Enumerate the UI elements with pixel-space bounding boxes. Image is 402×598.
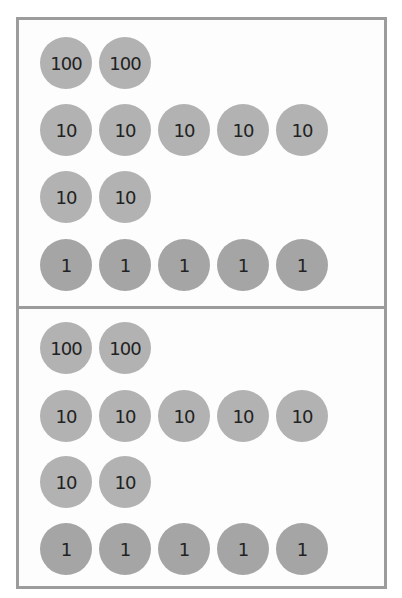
ten-disc: 10: [99, 104, 151, 156]
ones-row: 1 1 1 1 1: [40, 523, 328, 575]
hundred-disc: 100: [40, 37, 92, 89]
one-disc: 1: [217, 523, 269, 575]
ten-disc: 10: [276, 104, 328, 156]
ten-disc: 10: [40, 171, 92, 223]
hundred-disc: 100: [40, 322, 92, 374]
one-disc: 1: [217, 239, 269, 291]
hundred-disc: 100: [99, 37, 151, 89]
tens-row: 10 10 10 10 10: [40, 104, 328, 156]
one-disc: 1: [158, 239, 210, 291]
one-disc: 1: [276, 523, 328, 575]
ones-row: 1 1 1 1 1: [40, 239, 328, 291]
ten-disc: 10: [217, 104, 269, 156]
one-disc: 1: [40, 523, 92, 575]
tens-row: 10 10 10 10 10: [40, 390, 328, 442]
panel-top: 100 100 10 10 10 10 10 10 10 1 1 1 1 1: [19, 20, 384, 306]
one-disc: 1: [40, 239, 92, 291]
ten-disc: 10: [158, 104, 210, 156]
one-disc: 1: [99, 523, 151, 575]
place-value-frame: 100 100 10 10 10 10 10 10 10 1 1 1 1 1 1…: [16, 17, 387, 589]
ten-disc: 10: [99, 456, 151, 508]
hundreds-row: 100 100: [40, 322, 151, 374]
panel-bottom: 100 100 10 10 10 10 10 10 10 1 1 1 1 1: [19, 309, 384, 586]
ten-disc: 10: [40, 390, 92, 442]
tens-row-2: 10 10: [40, 456, 151, 508]
ten-disc: 10: [40, 456, 92, 508]
one-disc: 1: [276, 239, 328, 291]
ten-disc: 10: [158, 390, 210, 442]
ten-disc: 10: [99, 390, 151, 442]
ten-disc: 10: [276, 390, 328, 442]
hundred-disc: 100: [99, 322, 151, 374]
tens-row-2: 10 10: [40, 171, 151, 223]
hundreds-row: 100 100: [40, 37, 151, 89]
ten-disc: 10: [99, 171, 151, 223]
one-disc: 1: [99, 239, 151, 291]
ten-disc: 10: [217, 390, 269, 442]
ten-disc: 10: [40, 104, 92, 156]
one-disc: 1: [158, 523, 210, 575]
